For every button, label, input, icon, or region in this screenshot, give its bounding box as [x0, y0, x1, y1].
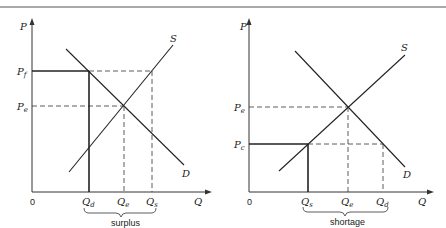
supply-label: S [401, 42, 408, 53]
demand-label: D [402, 169, 411, 180]
panel-shortage: P Q 0 S D Pe Pc Qs Qe Qd shortage [233, 18, 434, 227]
y-axis-label: P [239, 21, 247, 32]
price-ceiling-label: Pc [233, 139, 245, 152]
supply-curve [279, 55, 405, 171]
y-axis-arrow-icon [30, 18, 35, 25]
qs-label: Qs [146, 196, 158, 209]
qd-label: Qd [82, 196, 95, 209]
x-axis-label: Q [194, 196, 202, 207]
y-axis-label: P [19, 21, 27, 32]
x-axis-label: Q [418, 196, 426, 207]
y-axis-arrow-icon [247, 18, 252, 25]
supply-curve [69, 45, 173, 172]
equilibrium-price-label: Pe [16, 101, 28, 114]
surplus-brace [84, 208, 156, 217]
surplus-label: surplus [111, 218, 141, 228]
qe-label: Qe [117, 196, 129, 209]
x-axis-arrow-icon [205, 190, 212, 195]
x-axis-arrow-icon [427, 190, 434, 195]
qe-label: Qe [341, 196, 353, 209]
demand-curve [295, 51, 405, 167]
qd-label: Qd [376, 196, 389, 209]
demand-label: D [181, 168, 190, 179]
origin-label: 0 [247, 197, 252, 207]
demand-curve [66, 49, 184, 165]
supply-demand-figure: P Q 0 S D Pf Pe Qd Qe Qs surplus P Q 0 S… [0, 0, 446, 228]
panel-surplus: P Q 0 S D Pf Pe Qd Qe Qs surplus [16, 18, 212, 228]
shortage-brace [303, 207, 388, 216]
shortage-label: shortage [330, 217, 365, 227]
price-floor-label: Pf [16, 66, 28, 79]
equilibrium-price-label: Pe [233, 102, 245, 115]
origin-label: 0 [30, 197, 35, 207]
supply-label: S [170, 33, 177, 44]
